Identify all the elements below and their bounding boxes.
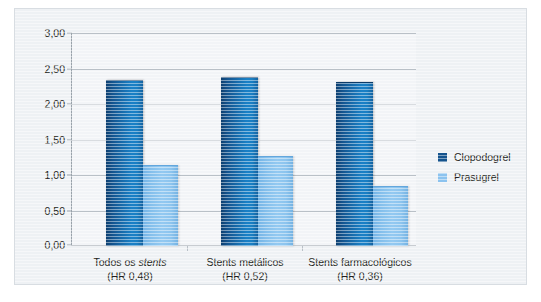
bar-clopodogrel-stents-metalicos[interactable] [221, 77, 258, 246]
ytick-label-2-50: 2,50 [45, 63, 65, 75]
legend-item-prasugrel[interactable]: Prasugrel [438, 167, 511, 187]
ytick-label-0-00: 0,00 [45, 239, 65, 251]
bar-group-stents-metalicos: Stents metálicos (HR 0,52) [187, 33, 302, 246]
category-label-stents-farmacologicos: Stents farmacológicos (HR 0,36) [275, 255, 445, 283]
chart-legend: Clopodogrel Prasugrel [438, 147, 511, 187]
ytick-label-0-50: 0,50 [45, 205, 65, 217]
bar-prasugrel-stents-farmacologicos[interactable] [373, 186, 408, 246]
legend-swatch-prasugrel-icon [438, 173, 447, 182]
ytick-label-1-00: 1,00 [45, 169, 65, 181]
category-separator [302, 246, 303, 251]
bar-group-stents-farmacologicos: Stents farmacológicos (HR 0,36) [302, 33, 417, 246]
bar-prasugrel-todos-os-stents[interactable] [143, 165, 178, 246]
category-label-main: Stents farmacológicos [275, 255, 445, 269]
chart-figure: 3,00 2,50 2,00 1,50 1,00 0,50 0,00 Todos… [14, 8, 527, 285]
legend-label-clopodogrel: Clopodogrel [454, 151, 511, 163]
legend-item-clopodogrel[interactable]: Clopodogrel [438, 147, 511, 167]
ytick-label-2-00: 2,00 [45, 98, 65, 110]
bar-prasugrel-stents-metalicos[interactable] [258, 156, 293, 246]
bar-group-todos-os-stents: Todos os stents (HR 0,48) [72, 33, 187, 246]
ytick-label-3-00: 3,00 [45, 27, 65, 39]
category-label-sub: (HR 0,36) [275, 269, 445, 283]
category-separator [187, 246, 188, 251]
legend-label-prasugrel: Prasugrel [454, 171, 499, 183]
ytick-label-1-50: 1,50 [45, 134, 65, 146]
bar-clopodogrel-todos-os-stents[interactable] [106, 80, 143, 246]
legend-swatch-clopodogrel-icon [438, 153, 447, 162]
plot-area: 3,00 2,50 2,00 1,50 1,00 0,50 0,00 Todos… [71, 33, 416, 246]
bar-clopodogrel-stents-farmacologicos[interactable] [336, 82, 373, 246]
